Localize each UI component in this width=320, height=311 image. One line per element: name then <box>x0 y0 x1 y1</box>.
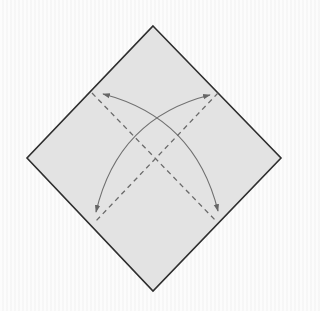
paper-square <box>27 26 281 291</box>
origami-diagram <box>0 0 306 311</box>
